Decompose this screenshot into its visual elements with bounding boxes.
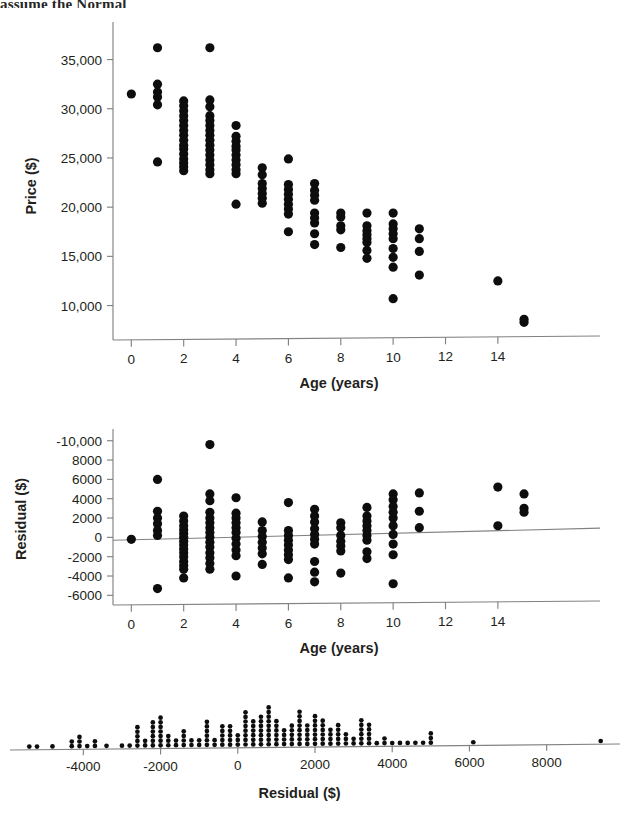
data-point <box>362 554 371 563</box>
y-tick-label: 10,000 <box>61 299 102 314</box>
dot-plot-dot <box>69 744 74 749</box>
dot-plot-dot <box>305 728 310 733</box>
dot-plot-dot <box>320 737 325 742</box>
data-point <box>310 557 319 566</box>
data-point <box>519 489 528 498</box>
dot-plot-dot <box>243 719 248 724</box>
dot-plot-dot <box>344 737 349 742</box>
data-point <box>389 263 398 272</box>
dot-plot-dot <box>212 742 217 747</box>
y-tick-label: 4000 <box>72 492 102 507</box>
dot-plot-dot <box>289 742 294 747</box>
dot-plot-dot <box>313 737 318 742</box>
dot-plot-dot <box>297 728 302 733</box>
dot-plot-dot <box>93 744 98 749</box>
dot-plot-dot <box>428 740 433 745</box>
data-point <box>179 573 188 582</box>
data-point <box>258 560 267 569</box>
data-point <box>389 208 398 217</box>
dot-plot-dot <box>367 741 372 746</box>
data-point <box>153 475 162 484</box>
dot-plot-dot <box>205 720 210 725</box>
x-tick-label: 4000 <box>377 756 407 771</box>
dot-plot-dot <box>359 732 364 737</box>
dot-plot-dot <box>158 743 163 748</box>
dot-plot-dot <box>151 720 156 725</box>
dot-plot-dot <box>166 738 171 743</box>
dot-plot-dot <box>282 742 287 747</box>
dot-plot-dot <box>471 740 476 745</box>
dot-plot-dot <box>344 741 349 746</box>
data-point <box>310 577 319 586</box>
dot-plot-dot <box>228 728 233 733</box>
dot-plot-dot <box>251 742 256 747</box>
y-tick-label: 30,000 <box>61 102 102 117</box>
data-point <box>493 521 502 530</box>
dot-plot-dot <box>428 731 433 736</box>
data-point <box>205 565 214 574</box>
data-point <box>415 488 424 497</box>
x-tick-label: 6000 <box>454 755 484 770</box>
data-point <box>389 540 398 549</box>
data-point <box>205 102 214 111</box>
dot-plot-dot <box>259 719 264 724</box>
dot-plot-dot <box>259 714 264 719</box>
dot-plot-dot <box>197 738 202 743</box>
dot-plot-dot <box>251 733 256 738</box>
y-tick-label: 25,000 <box>61 151 102 166</box>
dot-plot-dot <box>274 737 279 742</box>
dot-plot-dot <box>77 744 82 749</box>
dot-plot-dot <box>243 715 248 720</box>
dot-plot-dot <box>328 737 333 742</box>
dot-plot-dot <box>336 737 341 742</box>
dot-plot-dot <box>405 741 410 746</box>
x-axis-title: Residual ($) <box>258 785 340 801</box>
dot-plot-dot <box>289 723 294 728</box>
data-point <box>231 200 240 209</box>
data-point <box>284 573 293 582</box>
data-point <box>205 440 214 449</box>
dot-plot-dot <box>228 742 233 747</box>
y-axis-title: Price ($) <box>23 157 39 214</box>
dot-plot-dot <box>320 732 325 737</box>
dot-plot-dot <box>328 728 333 733</box>
dot-plot-dot <box>181 743 186 748</box>
dot-plot-dot <box>359 741 364 746</box>
dot-plot-dot <box>151 734 156 739</box>
data-point <box>415 523 424 532</box>
dot-plot-dot <box>69 739 74 744</box>
dot-plot-dot <box>320 741 325 746</box>
price-vs-age-svg: 10,00015,00020,00025,00030,00035,0000246… <box>0 10 628 400</box>
dot-plot-dot <box>305 732 310 737</box>
dot-plot-dot <box>282 728 287 733</box>
x-tick-label: 2 <box>180 351 188 366</box>
dot-plot-dot <box>166 734 171 739</box>
dot-plot-dot <box>220 742 225 747</box>
dot-plot-dot <box>174 738 179 743</box>
dot-plot-dot <box>398 741 403 746</box>
dot-plot-dot <box>274 733 279 738</box>
dot-plot-dot <box>297 714 302 719</box>
dot-plot-dot <box>374 741 379 746</box>
dot-plot-dot <box>336 727 341 732</box>
x-tick-label: 12 <box>438 349 453 364</box>
data-point <box>389 244 398 253</box>
data-point <box>362 246 371 255</box>
dot-plot-dot <box>390 741 395 746</box>
x-tick-label: 14 <box>490 349 506 364</box>
dot-plot-dot <box>266 728 271 733</box>
dot-plot-dot <box>266 742 271 747</box>
data-point <box>415 270 424 279</box>
dot-plot-dot <box>359 736 364 741</box>
data-point <box>153 584 162 593</box>
dot-plot-dot <box>297 709 302 714</box>
dot-plot-dot <box>259 728 264 733</box>
data-point <box>231 121 240 130</box>
dot-plot-dot <box>359 723 364 728</box>
figure-page: assume the Normal 10,00015,00020,00025,0… <box>0 0 628 821</box>
dot-plot-dot <box>421 740 426 745</box>
y-tick-label: 0 <box>94 530 102 545</box>
dot-plot-dot <box>235 738 240 743</box>
data-point <box>284 555 293 564</box>
dot-plot-dot <box>428 736 433 741</box>
